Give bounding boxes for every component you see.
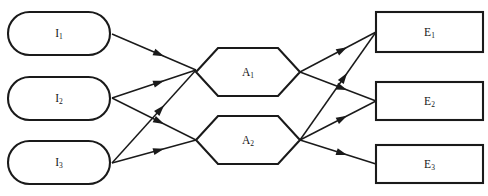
node-e3[interactable]: E3 <box>376 145 483 183</box>
node-a2[interactable]: A2 <box>196 116 300 164</box>
node-label-subscript: 1 <box>250 70 254 79</box>
arrow-head-icon <box>153 49 165 57</box>
node-label-subscript: 1 <box>59 32 63 41</box>
node-label-subscript: 1 <box>431 30 435 39</box>
edge-i2-to-a2 <box>112 98 196 140</box>
edge-line <box>300 32 376 140</box>
diagram-container: I1I2I3A1A2E1E2E3 <box>0 0 488 196</box>
node-i1[interactable]: I1 <box>8 12 110 55</box>
arrow-head-icon <box>153 148 165 155</box>
diagram-canvas: I1I2I3A1A2E1E2E3 <box>0 0 488 196</box>
node-label-subscript: 3 <box>431 162 435 171</box>
edge-line <box>112 98 196 140</box>
edge-a1-to-e1 <box>300 32 376 72</box>
edge-i1-to-a1 <box>112 34 196 70</box>
arrow-head-icon <box>336 47 347 55</box>
arrow-head-icon <box>336 116 347 124</box>
node-i3[interactable]: I3 <box>8 141 110 184</box>
node-e2[interactable]: E2 <box>376 82 483 120</box>
edge-a2-to-e3 <box>300 140 376 164</box>
edge-a2-to-e1 <box>300 32 376 140</box>
arrow-head-icon <box>153 81 165 88</box>
node-label-subscript: 2 <box>59 97 63 106</box>
edge-i3-to-a2 <box>112 140 196 163</box>
nodes-layer: I1I2I3A1A2E1E2E3 <box>8 12 483 184</box>
node-e1[interactable]: E1 <box>376 12 483 52</box>
node-label-subscript: 3 <box>59 161 63 170</box>
node-label-subscript: 2 <box>250 138 254 147</box>
node-label-subscript: 2 <box>431 99 435 108</box>
node-i2[interactable]: I2 <box>8 77 110 120</box>
node-a1[interactable]: A1 <box>196 48 300 96</box>
arrow-head-icon <box>338 73 347 84</box>
edge-a2-to-e2 <box>300 101 376 140</box>
arrow-head-icon <box>336 148 348 155</box>
